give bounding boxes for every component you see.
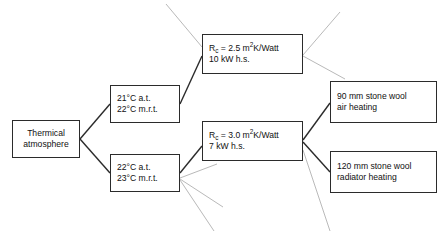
ghost-branch-top-right-lower [303,56,345,79]
edge-temp-lower-to-rc-lower [180,146,202,173]
temp-upper-value-2: 22 [117,104,127,114]
node-result-air-heating: 90 mm stone wool air heating [330,81,437,123]
edge-root-to-temp-upper [80,104,110,139]
rc-upper-exponent: 2 [250,41,254,48]
node-rc-lower-line-1: Rc = 3.0 m2K/Watt [203,130,302,142]
node-result-lower-line-2: radiator heating [331,172,436,184]
diagram-canvas: Thermical atmosphere 21°C a.t. 22°C m.r.… [0,0,447,235]
node-temperature-upper: 21°C a.t. 22°C m.r.t. [110,85,180,123]
temp-lower-unit-2: °C m.r.t. [127,173,158,183]
node-result-upper-line-2: air heating [331,102,436,114]
temp-lower-unit-1: °C a.t. [127,162,151,172]
temp-lower-value-1: 22 [117,162,127,172]
edge-temp-upper-to-rc-upper [180,56,202,104]
node-temp-upper-line-2: 22°C m.r.t. [111,104,179,116]
node-rc-upper-line-2: 10 kW h.s. [203,54,302,66]
ghost-branch-bottom-2 [180,179,223,207]
ghost-branch-bottom-3 [180,180,214,231]
node-temperature-lower: 22°C a.t. 23°C m.r.t. [110,154,180,192]
node-thermical-atmosphere: Thermical atmosphere [12,120,80,158]
node-temp-upper-line-1: 21°C a.t. [111,93,179,105]
ghost-branch-rc-lower-down [303,150,330,231]
temp-upper-unit-2: °C m.r.t. [127,104,158,114]
node-root-line-1: Thermical [13,128,79,140]
rc-lower-subscript: c [215,134,218,141]
rc-upper-value: = 2.5 m [218,43,249,53]
node-temp-lower-line-1: 22°C a.t. [111,162,179,174]
node-result-radiator-heating: 120 mm stone wool radiator heating [330,151,437,193]
node-rc-lower: Rc = 3.0 m2K/Watt 7 kW h.s. [202,121,303,161]
ghost-branch-top-left [166,4,202,47]
rc-upper-unit-tail: K/Watt [253,43,278,53]
rc-lower-value: = 3.0 m [218,130,249,140]
ghost-branch-top-right-upper [303,12,340,55]
node-rc-upper: Rc = 2.5 m2K/Watt 10 kW h.s. [202,34,303,74]
node-rc-lower-line-2: 7 kW h.s. [203,141,302,153]
temp-upper-unit-1: °C a.t. [127,93,151,103]
edge-root-to-temp-lower [80,139,110,173]
temp-upper-value-1: 21 [117,93,127,103]
rc-upper-subscript: c [215,47,218,54]
node-result-upper-line-1: 90 mm stone wool [331,91,436,103]
rc-lower-unit-tail: K/Watt [253,130,278,140]
edge-rc-lower-to-result-upper [303,103,330,140]
node-root-line-2: atmosphere [13,139,79,151]
edge-rc-lower-to-result-lower [303,142,330,172]
node-result-lower-line-1: 120 mm stone wool [331,161,436,173]
temp-lower-value-2: 23 [117,173,127,183]
rc-lower-exponent: 2 [250,128,254,135]
node-temp-lower-line-2: 23°C m.r.t. [111,173,179,185]
node-rc-upper-line-1: Rc = 2.5 m2K/Watt [203,43,302,55]
